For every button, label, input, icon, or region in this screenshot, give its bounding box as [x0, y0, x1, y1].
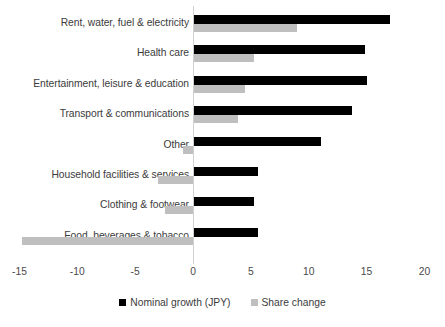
bar-nominal-growth — [193, 197, 254, 206]
bar-share-change — [22, 237, 193, 245]
bar-share-change — [158, 176, 193, 184]
bar-share-change — [183, 146, 193, 154]
bar-nominal-growth — [193, 76, 367, 85]
chart-category-row: Clothing & footwear — [0, 192, 445, 222]
category-label: Other — [0, 139, 189, 150]
axis-tick-label: 15 — [347, 266, 387, 277]
bar-nominal-growth — [193, 106, 352, 115]
category-label: Health care — [0, 47, 189, 58]
chart-category-row: Household facilities & services — [0, 162, 445, 192]
category-label: Transport & communications — [0, 108, 189, 119]
chart-category-row: Health care — [0, 40, 445, 70]
bar-nominal-growth — [193, 137, 321, 146]
bar-chart: Rent, water, fuel & electricityHealth ca… — [0, 0, 445, 327]
legend-swatch-icon — [251, 299, 258, 306]
legend-item[interactable]: Share change — [251, 297, 326, 308]
legend-swatch-icon — [119, 299, 126, 306]
category-label: Clothing & footwear — [0, 199, 189, 210]
chart-category-row: Other — [0, 132, 445, 162]
chart-category-row: Entertainment, leisure & education — [0, 71, 445, 101]
category-label: Rent, water, fuel & electricity — [0, 17, 189, 28]
axis-tick-label: -10 — [57, 266, 97, 277]
axis-tick-label: 5 — [231, 266, 271, 277]
bar-share-change — [193, 24, 297, 32]
bar-nominal-growth — [193, 15, 390, 24]
legend-label: Nominal growth (JPY) — [130, 297, 230, 308]
value-axis-line — [193, 6, 194, 264]
bar-share-change — [193, 115, 238, 123]
legend-item[interactable]: Nominal growth (JPY) — [119, 297, 230, 308]
axis-tick-label: -15 — [0, 266, 39, 277]
bar-nominal-growth — [193, 228, 258, 237]
axis-tick-label: -5 — [115, 266, 155, 277]
chart-category-row: Transport & communications — [0, 101, 445, 131]
bar-share-change — [193, 54, 254, 62]
bar-share-change — [193, 85, 245, 93]
bar-nominal-growth — [193, 45, 365, 54]
bar-share-change — [165, 206, 193, 214]
chart-category-row: Food, beverages & tobacco — [0, 223, 445, 253]
chart-legend: Nominal growth (JPY)Share change — [0, 293, 445, 311]
axis-tick-label: 10 — [289, 266, 329, 277]
chart-category-row: Rent, water, fuel & electricity — [0, 10, 445, 40]
bar-nominal-growth — [193, 167, 258, 176]
plot-area: Rent, water, fuel & electricityHealth ca… — [0, 6, 445, 264]
axis-tick-label: 20 — [404, 266, 444, 277]
category-label: Entertainment, leisure & education — [0, 78, 189, 89]
axis-tick-label: 0 — [173, 266, 213, 277]
x-axis-tick-labels: -15-10-505101520 — [0, 266, 445, 282]
legend-label: Share change — [262, 297, 326, 308]
